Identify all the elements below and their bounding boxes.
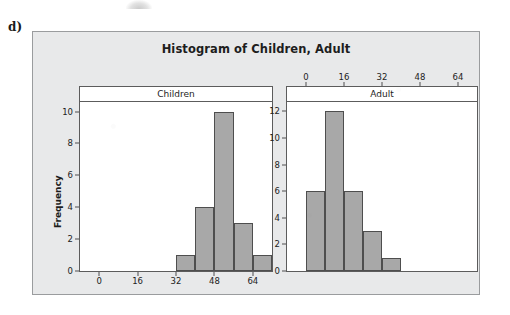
histogram-bar — [363, 231, 382, 271]
histogram-bar — [325, 111, 344, 271]
y-tick-label: 2 — [55, 234, 73, 244]
y-tick-label: 0 — [55, 266, 73, 276]
y-tick-label: 0 — [262, 266, 280, 276]
x-tick-mark — [252, 272, 253, 276]
panel-strip-adult: Adult — [287, 87, 477, 102]
x-tick-label: 48 — [415, 72, 426, 82]
x-tick-mark — [214, 272, 215, 276]
y-tick-label: 10 — [55, 107, 73, 117]
bars-adult — [287, 102, 477, 271]
panel-strip-label-adult: Adult — [370, 89, 393, 99]
histogram-bar — [234, 223, 253, 271]
panel-strip-children: Children — [80, 87, 272, 102]
part-label: d) — [8, 20, 22, 34]
x-tick-mark — [137, 272, 138, 276]
x-tick-label: 64 — [247, 276, 258, 286]
plot-area-adult: Adult — [286, 86, 478, 272]
y-tick-label: 10 — [262, 133, 280, 143]
y-tick-label: 4 — [262, 213, 280, 223]
histogram-figure: Histogram of Children, Adult Frequency 0… — [32, 31, 480, 295]
x-tick-label: 0 — [303, 72, 308, 82]
y-tick-label: 12 — [262, 106, 280, 116]
figure-title: Histogram of Children, Adult — [33, 42, 479, 56]
x-tick-label: 16 — [132, 276, 143, 286]
y-tick-label: 2 — [262, 239, 280, 249]
x-tick-label: 0 — [96, 276, 101, 286]
plot-area-children: Children — [79, 86, 273, 272]
scan-artifact — [126, 0, 152, 9]
y-tick-label: 4 — [55, 202, 73, 212]
x-tick-label: 32 — [171, 276, 182, 286]
y-tick-label: 8 — [55, 138, 73, 148]
histogram-bar — [176, 255, 195, 271]
histogram-bar — [195, 207, 214, 271]
y-tick-label: 6 — [55, 170, 73, 180]
y-tick-label: 8 — [262, 160, 280, 170]
x-tick-label: 48 — [209, 276, 220, 286]
histogram-bar — [382, 258, 401, 271]
histogram-bar — [214, 112, 233, 271]
x-tick-mark — [99, 272, 100, 276]
bars-children — [80, 102, 272, 271]
panel-strip-label-children: Children — [157, 89, 194, 99]
x-tick-label: 32 — [377, 72, 388, 82]
x-tick-mark — [176, 272, 177, 276]
histogram-bar — [344, 191, 363, 271]
y-tick-label: 6 — [262, 186, 280, 196]
x-tick-label: 64 — [453, 72, 464, 82]
x-tick-label: 16 — [339, 72, 350, 82]
histogram-bar — [306, 191, 325, 271]
